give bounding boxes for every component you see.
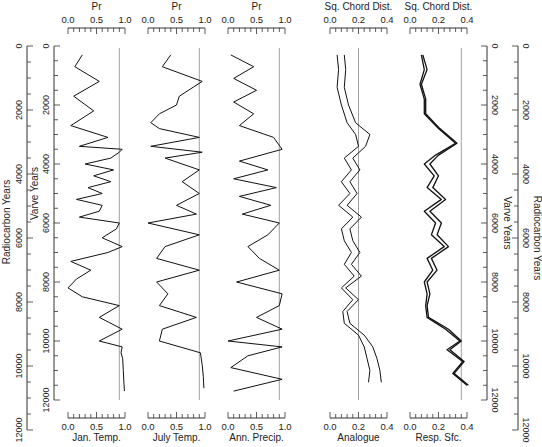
- panel-jan: 0.00.51.00.00.51.0PrJan. Temp.: [61, 1, 131, 443]
- series-line-ann-0: [228, 55, 282, 391]
- panel-top-label: Sq. Chord Dist.: [325, 1, 393, 12]
- panel-top-label: Pr: [172, 1, 183, 12]
- axis-tick-label: 2000: [41, 95, 51, 115]
- axis-tick-label: 0: [490, 43, 500, 48]
- x-tick-label: 0.0: [323, 421, 336, 432]
- varve-axis-right: 020004000600080001000012000: [481, 43, 500, 412]
- x-tick-label: 0.5: [90, 14, 103, 25]
- x-axis-bottom-analogue: 0.00.20.4: [323, 412, 393, 432]
- axis-tick-label: 8000: [14, 292, 24, 312]
- x-tick-label: 0.4: [460, 14, 473, 25]
- axis-tick-label: 10000: [41, 328, 51, 353]
- panels: 0.00.51.00.00.51.0PrJan. Temp.0.00.51.00…: [61, 1, 473, 443]
- panel-bottom-label: Analogue: [337, 432, 380, 443]
- x-tick-label: 0.0: [61, 421, 74, 432]
- axis-tick-label: 12000: [490, 387, 500, 412]
- axis-tick-label: 10000: [14, 353, 24, 378]
- panel-top-label: Pr: [252, 1, 263, 12]
- panel-top-label: Sq. Chord Dist.: [405, 1, 473, 12]
- axis-tick-label: 6000: [521, 228, 531, 248]
- radiocarbon-axis-title-right: Radiocarbon Years: [532, 196, 542, 281]
- series-line-july-0: [148, 55, 204, 388]
- x-tick-label: 1.0: [198, 14, 211, 25]
- panel-analogue: 0.00.20.40.00.20.4Sq. Chord Dist.Analogu…: [323, 1, 393, 443]
- x-tick-label: 0.0: [403, 421, 416, 432]
- x-tick-label: 0.0: [323, 14, 336, 25]
- varve-axis-title-left: Varve Years: [29, 167, 40, 220]
- x-tick-label: 0.2: [432, 14, 445, 25]
- x-axis-top-jan: 0.00.51.0: [61, 14, 131, 34]
- axis-tick-label: 8000: [521, 292, 531, 312]
- x-tick-label: 0.5: [170, 421, 183, 432]
- x-tick-label: 0.0: [61, 14, 74, 25]
- axis-tick-label: 2000: [490, 95, 500, 115]
- radiocarbon-axis-title-left: Radiocarbon Years: [1, 180, 12, 265]
- panel-top-label: Pr: [92, 1, 103, 12]
- x-axis-top-analogue: 0.00.20.4: [323, 14, 393, 34]
- axis-tick-label: 8000: [490, 272, 500, 292]
- axis-tick-label: 10000: [490, 328, 500, 353]
- radiocarbon-axis-right: 020004000600080001000012000: [512, 43, 531, 442]
- axis-tick-label: 2000: [521, 100, 531, 120]
- series-line-jan-0: [68, 55, 124, 391]
- x-tick-label: 0.2: [432, 421, 445, 432]
- axis-tick-label: 4000: [490, 154, 500, 174]
- axis-tick-label: 2000: [14, 100, 24, 120]
- x-axis-bottom-resp: 0.00.20.4: [403, 412, 473, 432]
- x-tick-label: 0.0: [141, 14, 154, 25]
- left-axes: 020004000600080001000012000Radiocarbon Y…: [1, 43, 60, 442]
- x-tick-label: 1.0: [118, 14, 131, 25]
- series-line-analogue-1: [344, 55, 381, 382]
- x-axis-bottom-july: 0.00.51.0: [141, 412, 211, 432]
- axis-tick-label: 0: [41, 43, 51, 48]
- panel-ann: 0.00.51.00.00.51.0PrAnn. Precip.: [221, 1, 291, 443]
- axis-tick-label: 8000: [41, 272, 51, 292]
- x-tick-label: 0.4: [380, 14, 393, 25]
- axis-tick-label: 4000: [521, 164, 531, 184]
- axis-tick-label: 12000: [521, 417, 531, 442]
- x-tick-label: 0.5: [250, 421, 263, 432]
- x-axis-top-july: 0.00.51.0: [141, 14, 211, 34]
- x-tick-label: 0.2: [352, 421, 365, 432]
- series-line-analogue-0: [337, 55, 370, 382]
- varve-axis-title-right: Varve Years: [502, 196, 513, 249]
- x-axis-bottom-ann: 0.00.51.0: [221, 412, 291, 432]
- x-tick-label: 0.0: [141, 421, 154, 432]
- panel-bottom-label: Jan. Temp.: [72, 432, 121, 443]
- x-tick-label: 0.0: [403, 14, 416, 25]
- x-tick-label: 0.5: [90, 421, 103, 432]
- axis-tick-label: 0: [14, 43, 24, 48]
- axis-tick-label: 12000: [14, 417, 24, 442]
- panel-bottom-label: Resp. Sfc.: [415, 432, 461, 443]
- x-tick-label: 0.4: [460, 421, 473, 432]
- axis-tick-label: 6000: [490, 213, 500, 233]
- x-tick-label: 1.0: [198, 421, 211, 432]
- x-tick-label: 0.4: [380, 421, 393, 432]
- x-tick-label: 0.0: [221, 421, 234, 432]
- axis-tick-label: 4000: [14, 164, 24, 184]
- x-tick-label: 0.5: [170, 14, 183, 25]
- x-axis-top-resp: 0.00.20.4: [403, 14, 473, 34]
- x-tick-label: 1.0: [278, 421, 291, 432]
- x-axis-bottom-jan: 0.00.51.0: [61, 412, 131, 432]
- right-axes: 020004000600080001000012000Varve Years02…: [481, 43, 542, 442]
- x-tick-label: 1.0: [278, 14, 291, 25]
- stratigraphic-chart: 020004000600080001000012000Radiocarbon Y…: [0, 0, 542, 447]
- panel-bottom-label: Ann. Precip.: [229, 432, 283, 443]
- axis-tick-label: 0: [521, 43, 531, 48]
- x-tick-label: 0.2: [352, 14, 365, 25]
- x-tick-label: 0.5: [250, 14, 263, 25]
- axis-tick-label: 12000: [41, 387, 51, 412]
- axis-tick-label: 10000: [521, 353, 531, 378]
- panel-bottom-label: July Temp.: [153, 432, 201, 443]
- x-axis-top-ann: 0.00.51.0: [221, 14, 291, 34]
- panel-resp: 0.00.20.40.00.20.4Sq. Chord Dist.Resp. S…: [403, 1, 473, 443]
- series-line-resp-0: [420, 55, 467, 385]
- radiocarbon-axis-left: 020004000600080001000012000: [14, 43, 33, 442]
- axis-tick-label: 6000: [14, 228, 24, 248]
- axis-tick-label: 4000: [41, 154, 51, 174]
- axis-tick-label: 6000: [41, 213, 51, 233]
- x-tick-label: 1.0: [118, 421, 131, 432]
- varve-axis-left: 020004000600080001000012000: [41, 43, 60, 412]
- x-tick-label: 0.0: [221, 14, 234, 25]
